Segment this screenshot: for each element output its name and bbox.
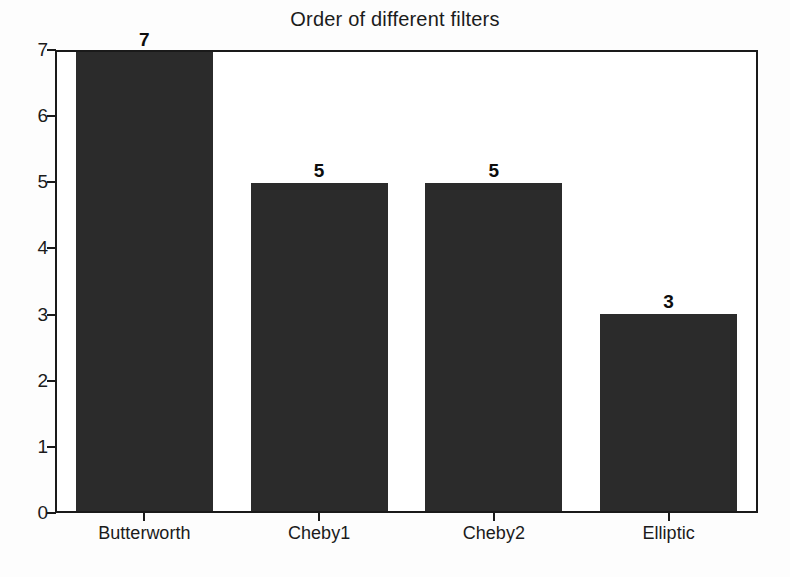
x-axis-tick-labels: ButterworthCheby1Cheby2Elliptic: [55, 523, 758, 553]
y-axis-tick-marks: [47, 50, 56, 513]
y-axis-tick-label: 2: [14, 371, 48, 390]
bar-value-label: 3: [663, 292, 674, 311]
y-axis-tick-label: 6: [14, 106, 48, 125]
bar-value-label: 5: [489, 161, 500, 180]
x-axis-tick-mark: [668, 512, 670, 521]
x-axis-tick-label: Elliptic: [643, 523, 695, 543]
y-axis-tick-label: 1: [14, 437, 48, 456]
y-axis-tick-mark: [47, 380, 56, 382]
bar-value-label: 5: [314, 161, 325, 180]
y-axis-tick-mark: [47, 181, 56, 183]
x-axis-tick-mark: [318, 512, 320, 521]
chart-title: Order of different filters: [0, 8, 790, 31]
y-axis-tick-label: 4: [14, 238, 48, 257]
y-axis-tick-label: 5: [14, 172, 48, 191]
y-axis-tick-mark: [47, 49, 56, 51]
x-axis-tick-label: Cheby1: [288, 523, 350, 543]
y-axis-tick-mark: [47, 446, 56, 448]
x-axis-tick-label: Cheby2: [463, 523, 525, 543]
y-axis-tick-label: 7: [14, 40, 48, 59]
y-axis-tick-label: 3: [14, 305, 48, 324]
x-axis-tick-mark: [143, 512, 145, 521]
y-axis-tick-label: 0: [14, 503, 48, 522]
y-axis-tick-mark: [47, 247, 56, 249]
bar-value-labels-layer: 7553: [57, 52, 756, 511]
chart-page: Order of different filters 01234567 7553…: [0, 0, 790, 577]
y-axis-tick-mark: [47, 314, 56, 316]
bar-value-label: 7: [139, 30, 150, 49]
x-axis-tick-label: Butterworth: [98, 523, 190, 543]
y-axis-tick-labels: 01234567: [6, 50, 48, 513]
x-axis-tick-mark: [493, 512, 495, 521]
y-axis-tick-mark: [47, 115, 56, 117]
x-axis-tick-marks: [55, 512, 758, 522]
